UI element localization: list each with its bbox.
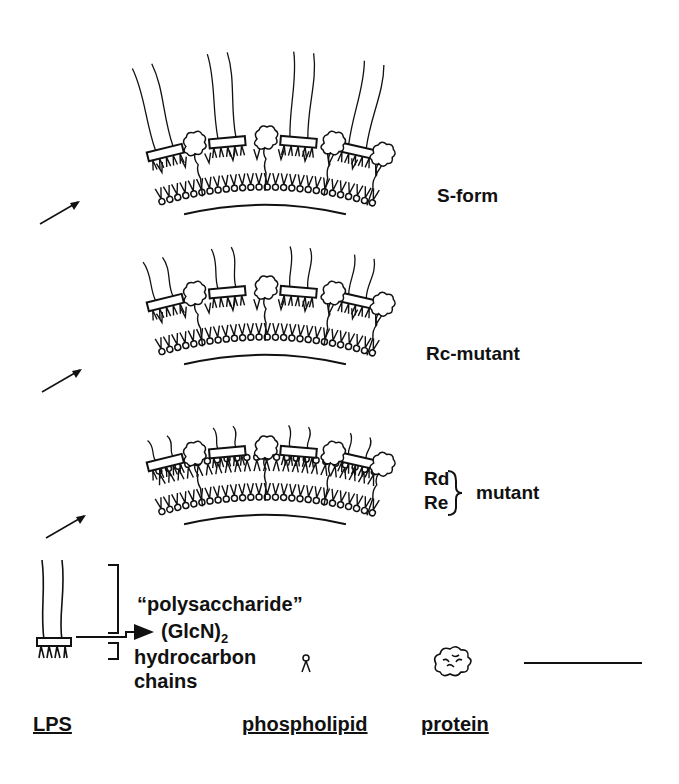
phospholipid [230, 484, 237, 501]
lps-molecule [279, 51, 323, 158]
outer-phospholipid [205, 303, 212, 314]
phospholipid [272, 323, 278, 340]
phospholipid [297, 324, 305, 341]
outer-phospholipid [205, 153, 212, 164]
phospholipid [313, 326, 321, 344]
phospholipid [230, 324, 237, 341]
legend-glcn-label: (GlcN)2 [161, 620, 228, 646]
outer-phospholipid [273, 454, 279, 471]
phospholipid [205, 177, 213, 195]
phospholipid [247, 323, 254, 340]
phospholipid [272, 173, 278, 190]
lps-molecule [137, 255, 186, 321]
glcn-subscript: 2 [221, 631, 228, 646]
phospholipid [205, 327, 213, 345]
phospholipid [213, 486, 221, 504]
phospholipid [280, 323, 287, 340]
legend-chains-label: chains [134, 670, 197, 693]
lps-molecule [279, 246, 320, 308]
phospholipid [155, 497, 165, 515]
phospholipid [313, 486, 321, 504]
legend-lps-title: LPS [33, 713, 72, 736]
phospholipid [247, 173, 254, 190]
label-re: Re [424, 492, 448, 514]
pointer-arrowhead [72, 369, 82, 378]
legend-phospholipid-title: phospholipid [242, 713, 368, 736]
legend-lps-icon [37, 560, 71, 658]
phospholipid [297, 174, 305, 191]
legend-bracket-polysaccharide [108, 565, 118, 633]
label-rc-mutant: Rc-mutant [426, 343, 520, 365]
pointer-arrowhead [70, 201, 80, 210]
legend-hydrocarbon-label: hydrocarbon [134, 646, 256, 669]
phospholipid [188, 180, 197, 198]
label-s-form: S-form [437, 185, 498, 207]
phospholipid [230, 174, 237, 191]
phospholipid [188, 490, 197, 508]
phospholipid [256, 323, 262, 340]
phospholipid [305, 485, 313, 503]
phospholipid [155, 187, 165, 205]
phospholipid [313, 176, 321, 194]
phospholipid [280, 483, 287, 500]
rd-re-brace [446, 469, 476, 519]
phospholipid [280, 173, 287, 190]
legend-polysaccharide-label: “polysaccharide” [137, 593, 303, 616]
phospholipid [213, 326, 221, 344]
phospholipid [205, 487, 213, 505]
lps-molecule [127, 61, 187, 171]
phospholipid [305, 325, 313, 343]
phospholipid [329, 179, 338, 197]
membrane-diagram [0, 0, 679, 784]
phospholipid [155, 337, 165, 355]
phospholipid [239, 324, 246, 341]
lps-molecule [279, 425, 318, 468]
phospholipid [289, 484, 296, 501]
panel-s-form [40, 51, 397, 224]
phospholipid [213, 176, 221, 194]
phospholipid [188, 330, 197, 348]
outer-phospholipid [254, 149, 260, 159]
legend-protein-title: protein [421, 713, 489, 736]
outer-phospholipid [254, 299, 260, 309]
lps-molecule [205, 246, 246, 308]
inner-membrane-arc [184, 355, 346, 364]
phospholipid [329, 489, 338, 507]
phospholipid [256, 173, 262, 190]
glcn-text: (GlcN) [161, 620, 221, 642]
panel-rd-re-mutant [46, 425, 397, 538]
phospholipid [305, 175, 313, 193]
phospholipid [222, 325, 230, 343]
phospholipid [272, 483, 278, 500]
inner-membrane-arc [184, 515, 346, 524]
lps-molecule [201, 51, 246, 158]
phospholipid [247, 483, 254, 500]
phospholipid-icon [302, 655, 310, 672]
legend-bracket-hydrocarbon [108, 643, 118, 659]
panel-rc-mutant [42, 246, 397, 392]
phospholipid [239, 174, 246, 191]
phospholipid [222, 175, 230, 193]
label-mutant: mutant [476, 482, 539, 504]
phospholipid [256, 483, 262, 500]
lps-molecule [142, 433, 186, 480]
inner-membrane-arc [184, 205, 346, 214]
phospholipid [329, 329, 338, 347]
phospholipid [239, 484, 246, 501]
lps-molecule [207, 425, 246, 468]
phospholipid [289, 174, 296, 191]
outer-phospholipid [204, 458, 212, 476]
protein-icon [435, 647, 471, 676]
phospholipid [289, 324, 296, 341]
pointer-arrowhead [76, 515, 86, 524]
outer-phospholipid [244, 454, 251, 471]
phospholipid [297, 484, 305, 501]
phospholipid [222, 485, 230, 503]
